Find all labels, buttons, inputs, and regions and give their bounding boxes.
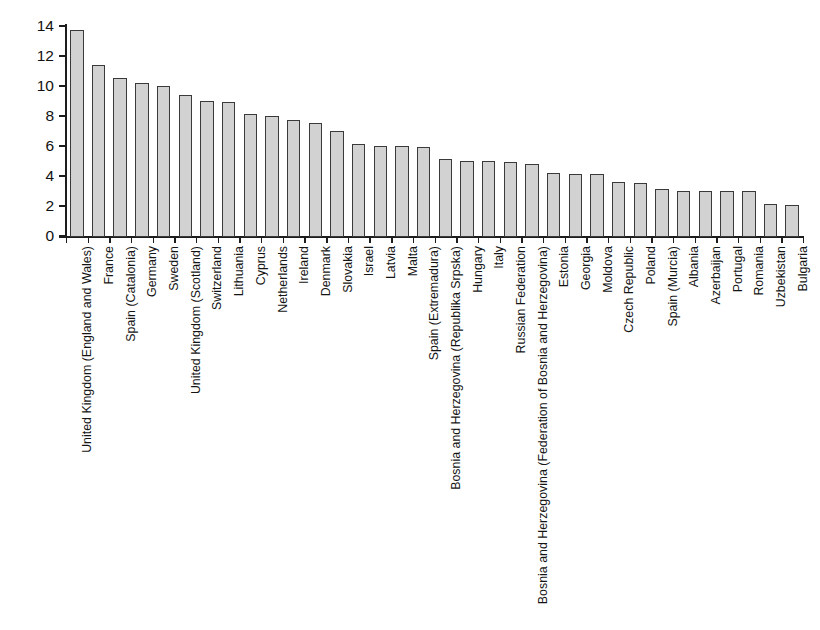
x-tick-label: Czech Republic [623, 246, 635, 333]
y-tick-mark [59, 145, 65, 147]
bar [590, 174, 603, 237]
bar [720, 191, 733, 238]
bar [179, 95, 192, 238]
x-tick-label: Italy [493, 246, 505, 269]
x-tick-mark [803, 237, 804, 243]
bar [460, 161, 473, 238]
x-tick-mark [66, 237, 67, 243]
y-tick-label: 6 [28, 138, 54, 154]
x-tick-mark [738, 237, 739, 243]
y-tick-label: 12 [28, 48, 54, 64]
x-tick-label: Portugal [732, 246, 744, 292]
bar [785, 205, 798, 237]
y-tick-mark [59, 25, 65, 27]
x-tick-mark [326, 237, 327, 243]
x-tick-mark [283, 237, 284, 243]
x-tick-label: Bosnia and Herzegovina (Republika Srpska… [450, 246, 462, 490]
bar [113, 78, 126, 237]
bar [200, 101, 213, 238]
x-tick-mark [456, 237, 457, 243]
bar [439, 159, 452, 237]
x-tick-label: Latvia [385, 246, 397, 279]
bar [634, 183, 647, 237]
x-tick-label: Malta [407, 246, 419, 276]
x-tick-mark [630, 237, 631, 243]
x-tick-label: Spain (Murcia) [667, 246, 679, 327]
bar [309, 123, 322, 237]
x-tick-label: Spain (Extremadura) [428, 246, 440, 360]
x-tick-mark [131, 237, 132, 243]
y-tick-label: 0 [28, 228, 54, 244]
x-tick-mark [521, 237, 522, 243]
x-tick-label: Russian Federation [515, 246, 527, 353]
y-tick-label: 10 [28, 78, 54, 94]
bar [569, 174, 582, 237]
bar [547, 173, 560, 238]
y-tick-mark [59, 235, 65, 237]
bar [655, 189, 668, 237]
y-tick-label: 8 [28, 108, 54, 124]
bar [287, 120, 300, 237]
x-tick-mark [239, 237, 240, 243]
x-tick-mark [695, 237, 696, 243]
x-tick-mark [543, 237, 544, 243]
x-tick-label: Bosnia and Herzegovina (Federation of Bo… [537, 246, 549, 604]
y-tick-mark [59, 85, 65, 87]
x-tick-label: Romania [753, 246, 765, 296]
x-tick-label: Cyprus [255, 246, 267, 285]
x-tick-label: United Kingdom (England and Wales) [81, 246, 93, 453]
x-tick-mark [565, 237, 566, 243]
x-tick-mark [196, 237, 197, 243]
bar [265, 116, 278, 238]
x-tick-label: Israel [363, 246, 375, 276]
bar [699, 191, 712, 238]
bar-chart: Percentage 02468101214 United Kingdom (E… [0, 0, 820, 630]
x-tick-mark [391, 237, 392, 243]
x-tick-label: Ireland [298, 246, 310, 284]
y-tick-mark [59, 55, 65, 57]
x-tick-label: Sweden [168, 246, 180, 291]
bar [525, 164, 538, 238]
x-tick-label: Poland [645, 246, 657, 285]
x-tick-label: Hungary [472, 246, 484, 293]
bar [504, 162, 517, 237]
bar [764, 204, 777, 237]
bar [135, 83, 148, 238]
x-tick-label: Azerbaijan [710, 246, 722, 305]
x-tick-mark [304, 237, 305, 243]
x-tick-label: Denmark [320, 246, 332, 296]
x-tick-mark [348, 237, 349, 243]
x-tick-mark [218, 237, 219, 243]
x-tick-mark [478, 237, 479, 243]
bar [482, 161, 495, 238]
x-tick-mark [261, 237, 262, 243]
x-tick-mark [673, 237, 674, 243]
bar [374, 146, 387, 238]
bar [70, 30, 83, 237]
x-tick-mark [716, 237, 717, 243]
bar [244, 114, 257, 237]
x-tick-mark [369, 237, 370, 243]
y-tick-mark [59, 175, 65, 177]
plot-area [66, 20, 804, 237]
bar [677, 191, 690, 238]
x-tick-label: Slovakia [342, 246, 354, 293]
bar [417, 147, 430, 237]
y-tick-label: 14 [28, 18, 54, 34]
bar [157, 86, 170, 238]
x-tick-mark [174, 237, 175, 243]
x-tick-label: Bulgaria [797, 246, 809, 291]
x-tick-label: Moldova [602, 246, 614, 293]
y-tick-label: 2 [28, 198, 54, 214]
x-tick-mark [651, 237, 652, 243]
x-tick-label: Netherlands [277, 246, 289, 313]
x-tick-mark [109, 237, 110, 243]
bar [222, 102, 235, 237]
x-tick-label: Estonia [558, 246, 570, 287]
x-tick-mark [586, 237, 587, 243]
x-tick-mark [608, 237, 609, 243]
x-tick-mark [413, 237, 414, 243]
bar [352, 144, 365, 237]
x-tick-mark [88, 237, 89, 243]
bar [742, 191, 755, 238]
